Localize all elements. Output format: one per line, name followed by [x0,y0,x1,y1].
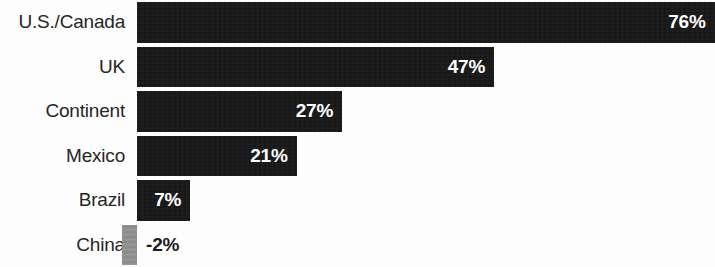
bar: 21% [137,136,297,177]
bar-row: China-2% [0,223,715,267]
bar-value-label: 47% [448,56,494,78]
plot-area: 7% [0,178,715,223]
bar-value-label: 27% [296,100,342,122]
bar: 47% [137,47,494,88]
bar [122,225,137,266]
horizontal-bar-chart: U.S./Canada76%UK47%Continent27%Mexico21%… [0,0,715,267]
bar-rows: U.S./Canada76%UK47%Continent27%Mexico21%… [0,0,715,267]
plot-area: 76% [0,0,715,45]
bar-value-label: 7% [154,189,190,211]
bar-row: Mexico21% [0,134,715,179]
plot-area: -2% [0,223,715,267]
bar-value-label: -2% [137,223,179,267]
bar: 27% [137,91,342,132]
plot-area: 21% [0,134,715,179]
plot-area: 27% [0,89,715,134]
bar-row: Continent27% [0,89,715,134]
bar-row: Brazil7% [0,178,715,223]
bar: 76% [137,2,715,43]
bar: 7% [137,180,190,221]
bar-value-label: 21% [250,145,296,167]
bar-row: U.S./Canada76% [0,0,715,45]
bar-row: UK47% [0,45,715,90]
bar-value-label: 76% [668,11,714,33]
plot-area: 47% [0,45,715,90]
